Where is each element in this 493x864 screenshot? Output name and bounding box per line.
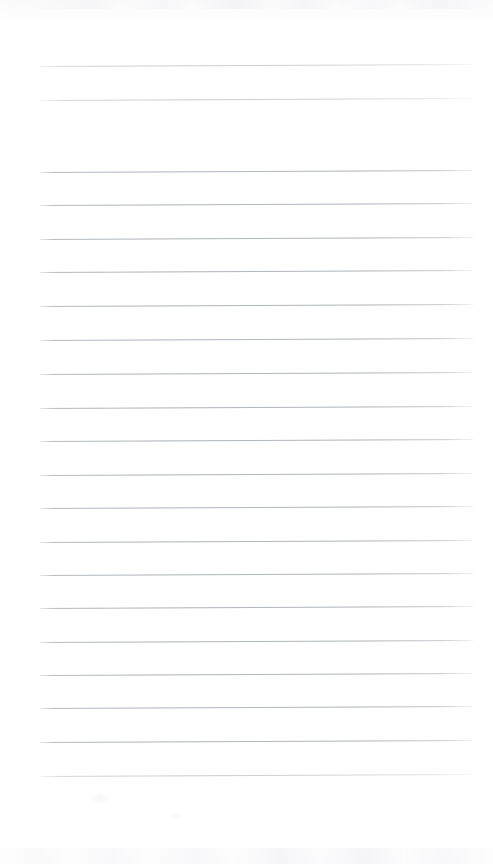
ruled-line bbox=[40, 170, 473, 173]
ruled-line bbox=[40, 706, 473, 709]
scanned-page bbox=[0, 0, 493, 864]
ruled-line bbox=[40, 64, 473, 67]
ruled-line bbox=[40, 740, 473, 743]
ruled-line bbox=[40, 203, 473, 206]
ruled-line bbox=[40, 304, 473, 307]
ruled-line bbox=[40, 406, 473, 409]
ruled-line bbox=[40, 473, 473, 476]
ruled-line bbox=[40, 606, 473, 609]
scan-edge-artifact-top bbox=[0, 0, 493, 9]
ruled-line bbox=[40, 506, 473, 509]
ruled-line bbox=[40, 573, 473, 576]
ruled-line bbox=[40, 640, 473, 643]
ruled-line bbox=[40, 439, 473, 442]
ruled-line bbox=[40, 338, 473, 341]
ruled-line bbox=[40, 98, 473, 101]
ruled-line bbox=[40, 774, 473, 777]
ruled-line bbox=[40, 540, 473, 543]
ruled-lines-group bbox=[0, 0, 493, 864]
scan-smudge-artifact bbox=[0, 786, 493, 826]
scan-edge-artifact-bottom bbox=[0, 848, 493, 864]
ruled-line bbox=[40, 673, 473, 676]
paper-texture-overlay bbox=[0, 0, 493, 864]
ruled-line bbox=[40, 270, 473, 273]
ruled-line bbox=[40, 237, 473, 240]
ruled-line bbox=[40, 372, 473, 375]
